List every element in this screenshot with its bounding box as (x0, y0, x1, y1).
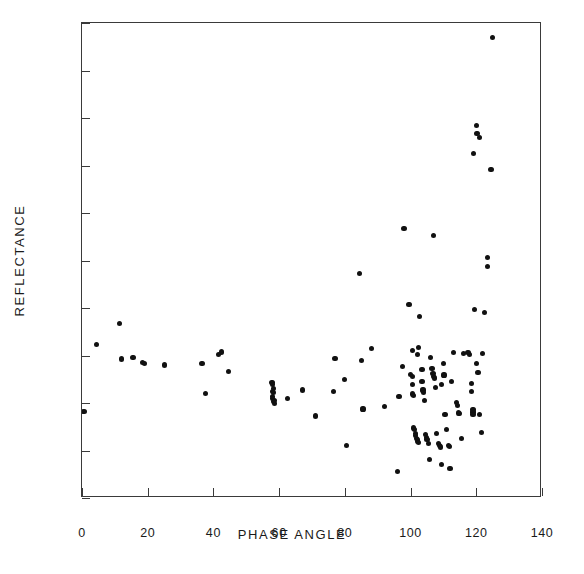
data-point (438, 444, 443, 449)
data-point (406, 302, 411, 307)
data-point (427, 457, 432, 462)
scatter-plot-figure: REFLECTANCE 00.020.040.060.080.100.120.1… (0, 0, 584, 574)
data-point (359, 358, 364, 363)
data-point (219, 349, 224, 354)
data-point (451, 350, 456, 355)
data-point (439, 382, 444, 387)
data-point (477, 412, 482, 417)
data-point (357, 271, 362, 276)
data-point (342, 377, 347, 382)
data-point (203, 391, 208, 396)
data-point (313, 413, 318, 418)
data-point (490, 35, 495, 40)
x-axis-title: PHASE ANGLE (0, 527, 584, 542)
data-point (457, 411, 462, 416)
data-point (471, 151, 476, 156)
data-point (470, 412, 475, 417)
data-point (300, 387, 305, 392)
data-point (474, 123, 479, 128)
data-point (331, 389, 336, 394)
data-point (428, 355, 433, 360)
data-point (477, 135, 482, 140)
data-point (480, 351, 485, 356)
data-point (417, 314, 422, 319)
data-point (422, 398, 427, 403)
data-point (419, 367, 424, 372)
data-point (94, 342, 99, 347)
data-point (416, 440, 421, 445)
data-point (411, 393, 416, 398)
data-point (485, 264, 490, 269)
data-point (482, 310, 487, 315)
data-point (459, 436, 464, 441)
data-point (426, 441, 431, 446)
data-point (344, 443, 349, 448)
data-point (410, 382, 415, 387)
data-point (226, 369, 231, 374)
data-point (162, 362, 167, 367)
data-point (401, 226, 406, 231)
data-point (332, 356, 337, 361)
x-axis-tick (542, 488, 543, 496)
data-point (432, 375, 437, 380)
data-point (467, 352, 472, 357)
data-point (479, 430, 484, 435)
y-axis-title-text: REFLECTANCE (13, 204, 28, 316)
data-point (449, 379, 454, 384)
data-point (382, 404, 387, 409)
data-point (395, 469, 400, 474)
data-point (130, 355, 135, 360)
data-point (421, 390, 426, 395)
data-point (455, 403, 460, 408)
data-point (441, 372, 446, 377)
data-point (119, 356, 124, 361)
data-point (82, 409, 87, 414)
data-point (475, 370, 480, 375)
data-point (419, 379, 424, 384)
data-point (142, 361, 147, 366)
plot-frame: 00.020.040.060.080.100.120.140.160.180.2… (81, 22, 541, 497)
data-point (441, 361, 446, 366)
data-point (472, 307, 477, 312)
data-point (285, 396, 290, 401)
data-point (447, 444, 452, 449)
data-point (396, 394, 401, 399)
data-point (400, 364, 405, 369)
data-point (469, 389, 474, 394)
data-point (360, 406, 365, 411)
data-point (469, 381, 474, 386)
data-point (416, 345, 421, 350)
y-axis-title: REFLECTANCE (6, 0, 34, 520)
data-point (447, 466, 452, 471)
data-point (415, 352, 420, 357)
data-point (488, 167, 493, 172)
data-point (117, 321, 122, 326)
data-point (199, 361, 204, 366)
data-point (474, 361, 479, 366)
data-point (433, 385, 438, 390)
data-point (410, 348, 415, 353)
data-point (439, 462, 444, 467)
data-point (410, 374, 415, 379)
data-point (431, 233, 436, 238)
y-axis-tick (82, 498, 90, 499)
data-point (434, 431, 439, 436)
data-point (444, 427, 449, 432)
data-point (369, 346, 374, 351)
data-point (485, 255, 490, 260)
data-point (442, 412, 447, 417)
data-points-layer (82, 23, 540, 496)
